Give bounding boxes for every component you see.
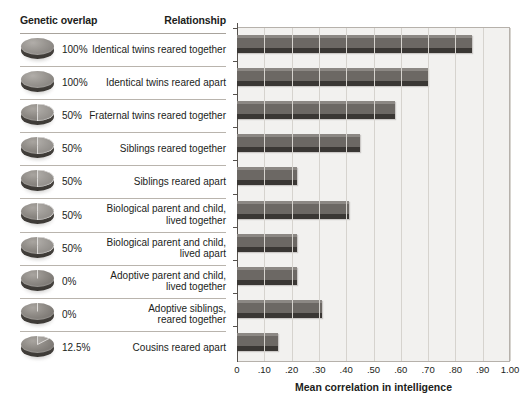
column-header-relationship: Relationship — [164, 14, 226, 26]
bar[interactable] — [237, 68, 428, 86]
disc-wedge — [21, 336, 54, 353]
row-divider — [20, 165, 226, 166]
table-row: 50%Biological parent and child,lived apa… — [0, 232, 232, 265]
gridline — [510, 28, 511, 361]
disc-top — [21, 71, 54, 88]
x-tick-label: .80 — [449, 364, 462, 375]
relationship-label: Identical twins reared together — [92, 44, 226, 56]
table-row: 12.5%Cousins reared apart — [0, 331, 232, 364]
genetic-overlap-value: 50% — [62, 210, 82, 221]
genetic-overlap-value: 50% — [62, 176, 82, 187]
table-row: 50%Biological parent and child,lived tog… — [0, 198, 232, 231]
disc-top — [21, 170, 54, 187]
disc-wedge — [21, 71, 54, 88]
table-row: 100%Identical twins reared together — [0, 33, 232, 66]
gridline — [319, 28, 320, 361]
genetic-overlap-value: 0% — [62, 276, 76, 287]
gridline — [401, 28, 402, 361]
row-divider — [20, 66, 226, 67]
disc-top — [21, 237, 54, 254]
relationship-table: Genetic overlap Relationship 100%Identic… — [0, 0, 232, 413]
disc-top — [21, 104, 54, 121]
disc-wedge — [21, 237, 54, 254]
row-divider — [20, 99, 226, 100]
bar[interactable] — [237, 201, 349, 219]
pie-disc-icon — [20, 336, 56, 360]
column-header-genetic-overlap: Genetic overlap — [20, 14, 97, 26]
pie-disc-icon — [20, 104, 56, 128]
disc-wedge — [21, 303, 54, 320]
genetic-overlap-value: 50% — [62, 110, 82, 121]
x-tick-label: .40 — [340, 364, 353, 375]
table-row: 50%Fraternal twins reared together — [0, 99, 232, 132]
x-tick-label: .20 — [285, 364, 298, 375]
bar[interactable] — [237, 167, 297, 185]
x-tick-label: .50 — [367, 364, 380, 375]
table-row: 0%Adoptive siblings,reared together — [0, 298, 232, 331]
x-tick-label: .30 — [312, 364, 325, 375]
x-tick-label: .70 — [421, 364, 434, 375]
relationship-label: Identical twins reared apart — [106, 77, 226, 89]
relationship-label: Biological parent and child,lived togeth… — [106, 203, 226, 226]
relationship-label: Siblings reared apart — [134, 176, 226, 188]
x-tick-label: .60 — [394, 364, 407, 375]
row-divider — [20, 298, 226, 299]
genetic-overlap-correlation-figure: Genetic overlap Relationship 100%Identic… — [0, 0, 523, 413]
pie-disc-icon — [20, 303, 56, 327]
pie-disc-icon — [20, 170, 56, 194]
genetic-overlap-value: 50% — [62, 243, 82, 254]
table-row-list: 100%Identical twins reared together100%I… — [0, 33, 232, 364]
row-divider — [20, 331, 226, 332]
disc-top — [21, 303, 54, 320]
genetic-overlap-value: 50% — [62, 143, 82, 154]
row-divider — [20, 198, 226, 199]
table-column-headers: Genetic overlap Relationship — [0, 14, 232, 32]
gridline — [483, 28, 484, 361]
bar[interactable] — [237, 101, 395, 119]
disc-top — [21, 38, 54, 55]
bar-chart: 0.10.20.30.40.50.60.70.80.901.00 Mean co… — [232, 0, 523, 413]
disc-top — [21, 203, 54, 220]
bar[interactable] — [237, 134, 360, 152]
bar[interactable] — [237, 35, 472, 53]
table-row: 50%Siblings reared apart — [0, 165, 232, 198]
disc-wedge — [21, 38, 54, 55]
relationship-label: Adoptive siblings,reared together — [148, 303, 226, 326]
row-divider — [20, 132, 226, 133]
gridline — [455, 28, 456, 361]
relationship-label: Biological parent and child,lived apart — [106, 237, 226, 260]
gridline — [292, 28, 293, 361]
disc-top — [21, 137, 54, 154]
row-divider — [20, 265, 226, 266]
disc-wedge — [21, 270, 54, 287]
bar[interactable] — [237, 333, 278, 351]
bar[interactable] — [237, 300, 322, 318]
disc-wedge — [21, 137, 54, 154]
relationship-label: Cousins reared apart — [133, 342, 226, 354]
x-tick-label: 0 — [234, 364, 239, 375]
bar[interactable] — [237, 267, 297, 285]
table-row: 50%Siblings reared together — [0, 132, 232, 165]
table-row: 0%Adoptive parent and child,lived togeth… — [0, 265, 232, 298]
bar[interactable] — [237, 234, 297, 252]
relationship-label: Fraternal twins reared together — [89, 110, 226, 122]
disc-top — [21, 336, 54, 353]
genetic-overlap-value: 0% — [62, 309, 76, 320]
row-divider — [20, 33, 226, 34]
pie-disc-icon — [20, 71, 56, 95]
gridline — [264, 28, 265, 361]
x-tick-label: .90 — [476, 364, 489, 375]
gridline — [428, 28, 429, 361]
plot-area — [237, 27, 510, 362]
genetic-overlap-value: 12.5% — [62, 342, 90, 353]
x-axis-title: Mean correlation in intelligence — [237, 381, 510, 393]
gridline — [346, 28, 347, 361]
disc-wedge — [21, 170, 54, 187]
disc-wedge — [21, 203, 54, 220]
genetic-overlap-value: 100% — [62, 77, 88, 88]
x-tick-label: .10 — [258, 364, 271, 375]
pie-disc-icon — [20, 137, 56, 161]
pie-disc-icon — [20, 203, 56, 227]
row-divider — [20, 232, 226, 233]
x-axis-tick-labels: 0.10.20.30.40.50.60.70.80.901.00 — [232, 364, 523, 378]
